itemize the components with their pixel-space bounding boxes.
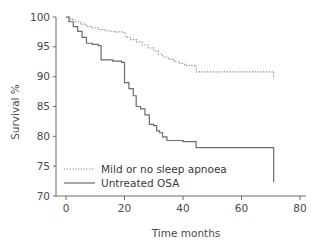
series-line-mild-or-no-sleep-apnoea	[66, 17, 274, 78]
chart-legend: Mild or no sleep apnoea Untreated OSA	[64, 163, 227, 189]
y-tick-label-80: 80	[37, 130, 50, 142]
x-tick-label-80: 80	[293, 202, 306, 214]
legend-label-untreated-osa: Untreated OSA	[101, 177, 180, 189]
y-tick-label-85: 85	[37, 100, 50, 112]
x-tick-label-0: 0	[63, 202, 70, 214]
y-tick-label-75: 75	[37, 160, 50, 172]
x-tick-label-60: 60	[235, 202, 248, 214]
y-tick-label-95: 95	[37, 40, 50, 52]
x-axis-title: Time months	[151, 227, 221, 239]
x-tick-label-40: 40	[176, 202, 189, 214]
x-tick-label-20: 20	[118, 202, 131, 214]
y-axis-tick-labels: 707580859095100	[30, 11, 50, 202]
chart-canvas: 707580859095100 020406080 Survival % Tim…	[0, 0, 324, 246]
y-tick-label-90: 90	[37, 70, 50, 82]
series-line-untreated-osa	[66, 17, 274, 182]
legend-label-mild-or-no-sleep-apnoea: Mild or no sleep apnoea	[101, 163, 227, 175]
y-axis-title: Survival %	[9, 84, 21, 140]
x-axis-tick-labels: 020406080	[63, 202, 307, 214]
survival-chart-figure: 707580859095100 020406080 Survival % Tim…	[0, 0, 324, 246]
y-tick-label-100: 100	[30, 11, 50, 23]
y-tick-label-70: 70	[37, 190, 50, 202]
